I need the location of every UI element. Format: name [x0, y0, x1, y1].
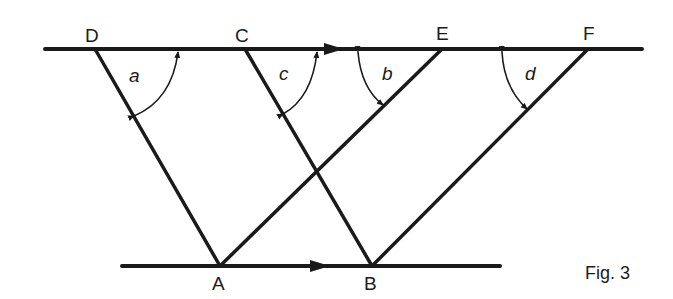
point-label-E: E: [436, 23, 449, 44]
segment-DA: [95, 49, 220, 266]
figure-3-diagram: D C E F A B a c b d Fig. 3: [0, 0, 673, 299]
bottom-line-arrow-icon: [310, 260, 330, 272]
angle-b-arc: [358, 52, 383, 105]
angle-label-c: c: [279, 63, 289, 84]
angle-label-b: b: [382, 63, 393, 84]
point-label-B: B: [364, 273, 377, 294]
segment-BF: [372, 49, 588, 266]
angle-label-d: d: [525, 63, 537, 84]
point-label-F: F: [583, 23, 595, 44]
top-line-arrow-icon: [324, 43, 344, 55]
diagram-svg: D C E F A B a c b d Fig. 3: [0, 0, 673, 299]
point-label-A: A: [212, 273, 225, 294]
point-label-D: D: [85, 25, 99, 46]
segment-CB: [245, 49, 372, 266]
angle-d-arc: [502, 52, 527, 109]
point-label-C: C: [235, 25, 249, 46]
angle-a-arc: [134, 52, 178, 116]
segment-AE: [220, 49, 442, 266]
figure-caption: Fig. 3: [585, 263, 630, 283]
angle-label-a: a: [129, 65, 140, 86]
